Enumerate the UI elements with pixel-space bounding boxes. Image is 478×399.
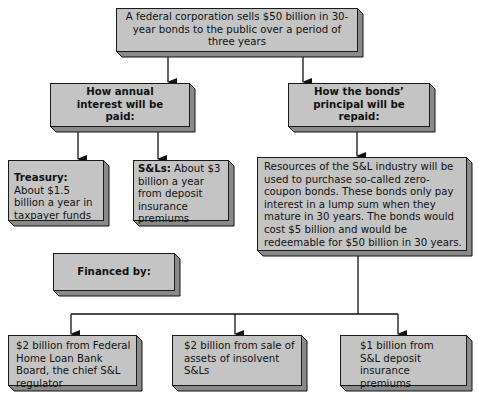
top-text: A federal corporation sells $50 billion … bbox=[123, 11, 351, 49]
treasury-text: About $1.5 billion a year in taxpayer fu… bbox=[14, 185, 92, 221]
principal-header-box: How the bonds’ principal will be repaid: bbox=[288, 83, 430, 127]
source-text: $1 billion from S&L deposit insurance pr… bbox=[360, 340, 434, 389]
resources-text: Resources of the S&L industry will be us… bbox=[264, 161, 462, 248]
sls-label: S&Ls: bbox=[138, 163, 171, 174]
treasury-box: Treasury: About $1.5 billion a year in t… bbox=[8, 160, 104, 221]
financed-by-box: Financed by: bbox=[53, 253, 175, 291]
principal-header-text: How the bonds’ principal will be repaid: bbox=[297, 86, 421, 124]
source-box-insurance-premiums: $1 billion from S&L deposit insurance pr… bbox=[340, 335, 467, 386]
source-box-fhlbb: $2 billion from Federal Home Loan Bank B… bbox=[8, 335, 137, 386]
financed-by-text: Financed by: bbox=[77, 266, 151, 279]
interest-header-text: How annual interest will be paid: bbox=[65, 86, 175, 124]
source-box-insolvent-assets: $2 billion from sale of assets of insolv… bbox=[172, 335, 302, 386]
source-text: $2 billion from sale of assets of insolv… bbox=[184, 340, 295, 376]
top-box: A federal corporation sells $50 billion … bbox=[116, 8, 358, 52]
treasury-label: Treasury: bbox=[14, 172, 68, 183]
sls-box: S&Ls: About $3 billion a year from depos… bbox=[133, 160, 229, 221]
source-text: $2 billion from Federal Home Loan Bank B… bbox=[16, 340, 130, 389]
resources-box: Resources of the S&L industry will be us… bbox=[257, 157, 467, 251]
interest-header-box: How annual interest will be paid: bbox=[50, 83, 190, 127]
